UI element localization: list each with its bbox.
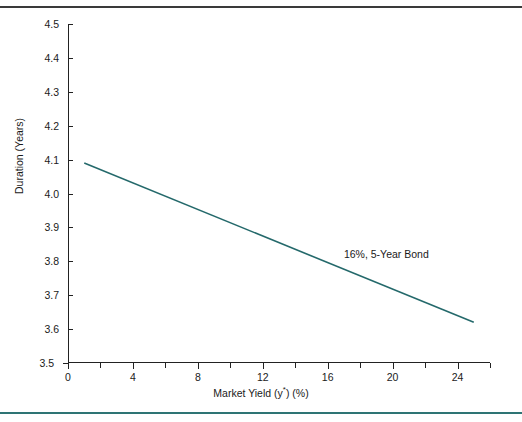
x-tick-minor [490,363,491,368]
x-tick-label: 4 [130,372,136,383]
series-annotation: 16%, 5-Year Bond [344,249,429,260]
x-tick-major [133,363,134,369]
x-tick-major [393,363,394,369]
bottom-rule [0,412,522,414]
x-tick-minor [230,363,231,368]
duration-yield-line [84,163,474,322]
y-axis-title: Duration (Years) [14,118,25,194]
x-tick-minor [100,363,101,368]
y-tick-label: 4.2 [44,120,59,131]
y-tick-label: 3.5 [39,358,54,369]
y-tick-label: 3.7 [44,290,59,301]
x-tick-major [458,363,459,369]
x-axis-title-prefix: Market Yield (y [213,387,282,399]
x-tick-minor [295,363,296,368]
x-tick-major [198,363,199,369]
figure-canvas: Duration (Years) Market Yield (y*) (%) 3… [0,0,522,422]
series-layer [68,24,490,363]
y-tick-label: 4.5 [44,19,59,30]
y-tick-label: 3.6 [44,324,59,335]
x-tick-label: 24 [452,372,464,383]
y-tick-label: 4.3 [44,87,59,98]
x-tick-label: 0 [65,372,71,383]
x-axis-title-suffix: ) (%) [286,387,309,399]
x-tick-label: 16 [322,372,334,383]
x-tick-minor [165,363,166,368]
top-rule [0,6,522,8]
x-tick-major [328,363,329,369]
x-tick-label: 20 [387,372,399,383]
y-tick-label: 3.8 [44,256,59,267]
x-tick-major [263,363,264,369]
x-tick-label: 8 [195,372,201,383]
y-tick-label: 4.0 [44,188,59,199]
y-tick-label: 4.4 [44,53,59,64]
y-tick-label: 3.9 [44,222,59,233]
x-tick-minor [360,363,361,368]
x-axis-title: Market Yield (y*) (%) [0,386,522,398]
y-tick-label: 4.1 [44,154,59,165]
x-tick-minor [425,363,426,368]
x-tick-label: 12 [257,372,269,383]
plot-area: 3.53.63.73.83.94.04.14.24.34.44.5 048121… [68,24,490,363]
x-tick-major [68,363,69,369]
